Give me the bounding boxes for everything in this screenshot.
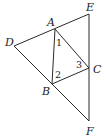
segment-ac — [55, 29, 89, 68]
point-label-c: C — [93, 63, 102, 76]
point-label-b: B — [41, 85, 50, 98]
segment-df — [14, 46, 89, 121]
point-label-e: E — [85, 1, 94, 14]
point-label-d: D — [4, 36, 14, 49]
angle-label-2: 2 — [55, 69, 61, 80]
angle-label-3: 3 — [76, 59, 82, 70]
geometry-diagram: ABCDEF 123 — [0, 0, 106, 137]
angle-labels: 123 — [55, 37, 82, 80]
point-label-a: A — [46, 16, 55, 29]
point-label-f: F — [85, 125, 94, 137]
angle-label-1: 1 — [56, 37, 62, 48]
diagram-svg: ABCDEF 123 — [0, 0, 106, 137]
